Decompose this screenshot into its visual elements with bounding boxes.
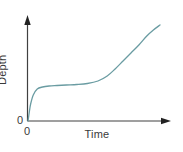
depth-time-curve	[28, 25, 160, 121]
x-axis-origin-tick-label: 0	[24, 126, 30, 137]
y-axis-label: Depth	[0, 59, 8, 85]
x-axis-arrowhead-icon	[161, 118, 171, 124]
x-axis-label: Time	[72, 129, 122, 140]
depth-time-chart-figure: Depth Time 0 0	[0, 0, 183, 152]
y-axis-origin-tick-label: 0	[17, 115, 23, 126]
y-axis-arrowhead-icon	[24, 15, 30, 25]
